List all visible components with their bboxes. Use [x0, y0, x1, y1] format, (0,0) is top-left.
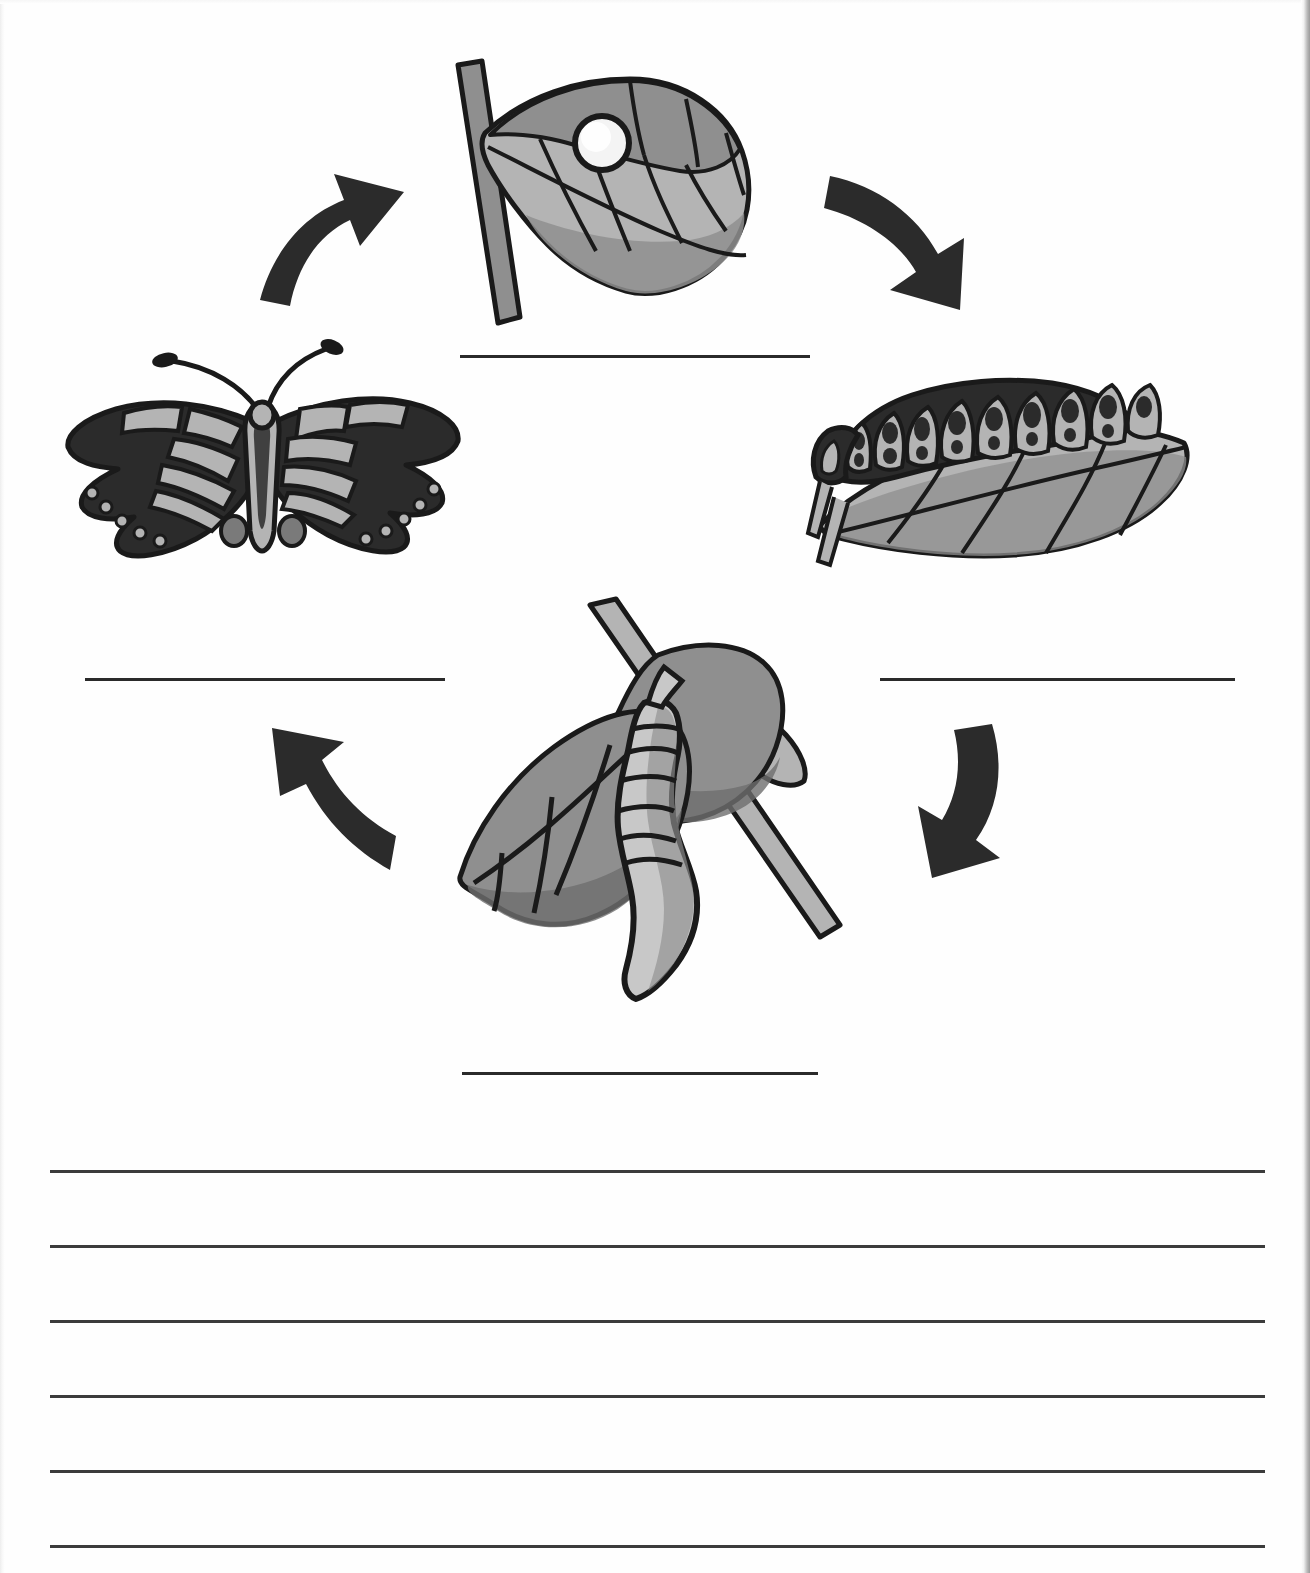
write-line-6[interactable] — [50, 1545, 1265, 1548]
curved-arrow-down-right-icon — [812, 168, 972, 313]
blank-bottom[interactable] — [462, 1072, 818, 1075]
scan-edge-top — [0, 0, 1310, 4]
curved-arrow-up-right-icon — [252, 168, 412, 308]
caterpillar-on-leaf-icon — [800, 365, 1200, 585]
chrysalis-on-branch-icon — [420, 595, 870, 1015]
curved-arrow-up-left-icon — [258, 718, 398, 878]
wing-eyespot-right-icon — [279, 516, 305, 546]
blank-right[interactable] — [880, 678, 1235, 681]
stage-larva-illustration — [800, 365, 1200, 585]
stage-egg-illustration — [430, 55, 770, 325]
worksheet-page — [0, 0, 1310, 1573]
write-line-3[interactable] — [50, 1320, 1265, 1323]
arrow-egg-to-larva — [812, 168, 972, 313]
curved-arrow-down-left-icon — [888, 718, 1028, 883]
write-line-4[interactable] — [50, 1395, 1265, 1398]
butterfly-antennae-icon — [172, 349, 326, 410]
scan-edge-left — [0, 0, 5, 1573]
write-line-2[interactable] — [50, 1245, 1265, 1248]
blank-top[interactable] — [460, 355, 810, 358]
blank-left[interactable] — [85, 678, 445, 681]
arrow-larva-to-pupa — [888, 718, 1028, 883]
write-line-5[interactable] — [50, 1470, 1265, 1473]
wing-eyespot-left-icon — [221, 516, 247, 546]
write-line-1[interactable] — [50, 1170, 1265, 1173]
arrow-pupa-to-adult — [258, 718, 398, 878]
stage-adult-illustration — [62, 335, 462, 600]
stage-pupa-illustration — [420, 595, 870, 1015]
arrow-adult-to-egg — [252, 168, 412, 308]
butterfly-icon — [62, 335, 462, 600]
scan-edge-right — [1301, 0, 1310, 1573]
egg-on-leaf-icon — [430, 55, 770, 325]
